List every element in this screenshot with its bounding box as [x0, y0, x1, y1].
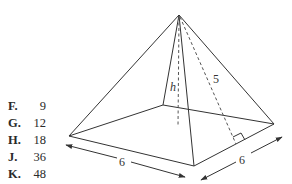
base-right-label: 6: [239, 153, 245, 167]
dimension-arrow-right: [201, 162, 236, 180]
dimension-arrow-front: [66, 145, 117, 158]
base-edge-back-right: [163, 105, 274, 124]
base-front-label: 6: [119, 155, 125, 169]
pyramid-figure: h 5 6 6: [0, 0, 292, 184]
lateral-edge-front: [179, 15, 194, 166]
dimension-arrow-right: [251, 137, 282, 153]
dimension-arrow-front: [131, 162, 185, 177]
base-edge-front-right: [194, 124, 274, 166]
slant-height-label: 5: [213, 72, 219, 86]
lateral-edge-right: [179, 15, 274, 124]
slant-height-line: [180, 17, 236, 144]
right-angle-marker: [233, 133, 245, 140]
height-line: [178, 17, 179, 127]
height-label: h: [170, 80, 176, 94]
